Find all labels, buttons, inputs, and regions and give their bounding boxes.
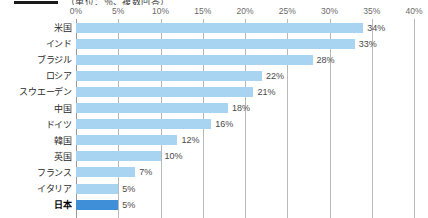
category-label: 日本 — [0, 198, 72, 211]
bar-value-label: 12% — [181, 135, 199, 145]
x-tick-label: 40% — [405, 6, 422, 16]
bar — [76, 200, 118, 210]
legend-swatch — [14, 1, 58, 4]
category-label: スウエーデン — [0, 85, 72, 98]
category-label: ドイツ — [0, 118, 72, 131]
bar — [76, 135, 177, 145]
category-label: 米国 — [0, 21, 72, 34]
x-tick-label: 15% — [194, 6, 211, 16]
plot-area: 米国34%インド33%ブラジル28%ロシア22%スウエーデン21%中国18%ドイ… — [0, 19, 428, 218]
legend-label: （単位：％、複数回答） — [66, 0, 169, 5]
bar-value-label: 5% — [122, 200, 135, 210]
bar — [76, 184, 118, 194]
category-label: 中国 — [0, 102, 72, 115]
bar — [76, 87, 253, 97]
bar-row: 米国34% — [0, 20, 428, 36]
bar-value-label: 28% — [317, 55, 335, 65]
x-tick-label: 10% — [152, 6, 169, 16]
bar-rows: 米国34%インド33%ブラジル28%ロシア22%スウエーデン21%中国18%ドイ… — [0, 19, 428, 218]
bar-value-label: 18% — [232, 103, 250, 113]
bar-row: ロシア22% — [0, 68, 428, 84]
x-tick-label: 5% — [112, 6, 124, 16]
bar — [76, 55, 313, 65]
category-label: フランス — [0, 166, 72, 179]
bar-value-label: 16% — [215, 119, 233, 129]
bar — [76, 119, 211, 129]
bar — [76, 71, 262, 81]
bar-value-label: 7% — [139, 167, 152, 177]
bar-row: スウエーデン21% — [0, 84, 428, 100]
category-label: 英国 — [0, 150, 72, 163]
category-label: 韓国 — [0, 134, 72, 147]
bar — [76, 39, 355, 49]
bar-row: イタリア5% — [0, 181, 428, 197]
category-label: ロシア — [0, 69, 72, 82]
x-tick-label: 20% — [236, 6, 253, 16]
legend-strip: （単位：％、複数回答） — [0, 0, 428, 5]
bar — [76, 151, 161, 161]
x-axis-tick-labels: 0%5%10%15%20%25%30%35%40% — [0, 6, 428, 18]
bar — [76, 103, 228, 113]
bar-value-label: 34% — [367, 23, 385, 33]
bar-row: 中国18% — [0, 100, 428, 116]
bar-value-label: 5% — [122, 184, 135, 194]
category-label: ブラジル — [0, 53, 72, 66]
bar — [76, 167, 135, 177]
x-tick-label: 30% — [321, 6, 338, 16]
bar-row: インド33% — [0, 36, 428, 52]
bar — [76, 23, 363, 33]
category-label: インド — [0, 37, 72, 50]
x-tick-label: 0% — [70, 6, 82, 16]
x-tick-label: 35% — [363, 6, 380, 16]
bar-chart: （単位：％、複数回答） 0%5%10%15%20%25%30%35%40% 米国… — [0, 0, 428, 218]
x-tick-label: 25% — [279, 6, 296, 16]
bar-value-label: 21% — [257, 87, 275, 97]
category-label: イタリア — [0, 182, 72, 195]
bar-row: ブラジル28% — [0, 52, 428, 68]
bar-value-label: 22% — [266, 71, 284, 81]
bar-row: 英国10% — [0, 148, 428, 164]
bar-value-label: 33% — [359, 39, 377, 49]
bar-row: 韓国12% — [0, 132, 428, 148]
bar-row: 日本5% — [0, 197, 428, 213]
bar-row: ドイツ16% — [0, 116, 428, 132]
bar-value-label: 10% — [165, 151, 183, 161]
bar-row: フランス7% — [0, 164, 428, 180]
